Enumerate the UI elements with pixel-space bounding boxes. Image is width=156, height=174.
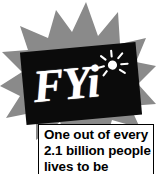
fyi-logo-badge: FYi — [20, 42, 142, 125]
caption-box: One out of every 2.1 billion people live… — [38, 124, 154, 174]
fyi-callout-graphic: FYi One out of every 2.1 billion people … — [0, 0, 156, 174]
caption-line-2: 2.1 billion people — [44, 143, 154, 159]
sunburst-icon — [96, 47, 131, 80]
caption-text: One out of every 2.1 billion people live… — [44, 127, 154, 174]
caption-line-1: One out of every — [44, 127, 154, 143]
caption-line-3: lives to be — [44, 159, 154, 174]
fyi-wordmark: FYi — [31, 58, 101, 110]
